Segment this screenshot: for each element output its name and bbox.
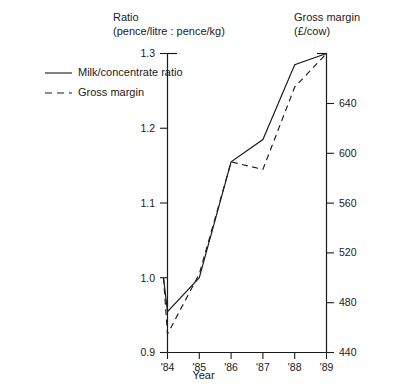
left-tick-label-1-2: 1.2 xyxy=(115,123,155,134)
series-line-milk-concentrate-ratio xyxy=(164,54,327,312)
right-axis-ticks xyxy=(327,104,335,353)
left-tick-label-1-3: 1.3 xyxy=(115,48,155,59)
left-tick-label-1-1: 1.1 xyxy=(115,198,155,209)
x-axis-title: Year xyxy=(0,368,407,382)
right-tick-label-520: 520 xyxy=(339,247,379,258)
chart-figure: Ratio (pence/litre : pence/kg) Gross mar… xyxy=(0,0,407,392)
right-tick-label-480: 480 xyxy=(339,297,379,308)
legend-item-gross-margin: Gross margin xyxy=(78,86,144,99)
left-tick-label-1-0: 1.0 xyxy=(115,273,155,284)
legend-item-milk-concentrate-ratio: Milk/concentrate ratio xyxy=(78,66,183,79)
right-tick-label-560: 560 xyxy=(339,198,379,209)
series-line-gross-margin xyxy=(164,54,327,335)
left-tick-label-0-9: 0.9 xyxy=(115,347,155,358)
right-tick-label-440: 440 xyxy=(339,347,379,358)
left-axis-ticks xyxy=(160,54,168,353)
chart-canvas xyxy=(0,0,407,392)
x-axis-ticks xyxy=(168,353,327,360)
right-tick-label-640: 640 xyxy=(339,98,379,109)
right-tick-label-600: 600 xyxy=(339,148,379,159)
